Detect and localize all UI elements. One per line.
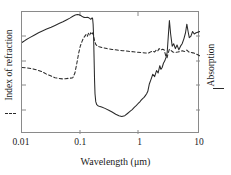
y-axis-ticks <box>22 36 200 110</box>
chart-figure: 0.010.1110 Wavelength (μm) Index of refr… <box>0 0 231 175</box>
x-axis-ticks <box>80 12 138 134</box>
plot-canvas <box>22 12 200 134</box>
x-axis-title: Wavelength (μm) <box>0 156 231 168</box>
series-line-absorption <box>22 14 200 116</box>
x-tick-label-1: 0.1 <box>74 137 86 147</box>
y-axis-title-right: Absorption <box>204 4 218 126</box>
x-tick-label-0: 0.01 <box>12 137 29 147</box>
x-tick-label-3: 10 <box>194 137 204 147</box>
series-line-index-of-refraction <box>22 33 200 79</box>
y-axis-title-left: Index of refraction <box>2 4 16 126</box>
legend-key-solid-line <box>213 88 224 89</box>
plot-area <box>21 11 199 133</box>
legend-key-dashed-line <box>5 113 16 114</box>
x-tick-label-2: 1 <box>137 137 142 147</box>
